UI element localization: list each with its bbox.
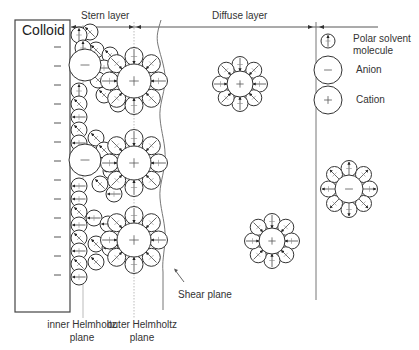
- diffuse-anion: [335, 175, 363, 203]
- polar-solvent-molecule: [88, 254, 104, 270]
- diffuse-layer-label: Diffuse layer: [212, 10, 267, 21]
- outer-helmholtz-plane-label: outer Helmholtz plane: [107, 318, 177, 344]
- hydration-solvent-molecule: [101, 231, 119, 249]
- stern-layer-label: Stern layer: [81, 10, 129, 21]
- hydration-solvent-molecule: [341, 161, 357, 177]
- stern-cation: [117, 223, 151, 257]
- hydration-solvent-molecule: [125, 48, 143, 66]
- anion-icon: [314, 56, 342, 84]
- legend-cation-label: Cation: [356, 94, 385, 105]
- stern-cation: [117, 146, 151, 180]
- shear-plane-pointer: [175, 270, 184, 282]
- diffuse-cation: [259, 228, 285, 254]
- hydration-solvent-molecule: [150, 154, 168, 172]
- colloid-label: Colloid: [22, 22, 65, 38]
- outer-helmholtz-label-line1: outer Helmholtz: [107, 318, 177, 331]
- hydration-solvent-molecule: [150, 72, 168, 90]
- adsorbed-anion: [69, 144, 101, 176]
- hydration-solvent-molecule: [125, 179, 143, 197]
- polar-solvent-molecule-icon: [321, 34, 335, 48]
- stern-cation: [117, 64, 151, 98]
- legend-polar-solvent-label: Polar solvent molecule: [353, 33, 411, 57]
- hydration-solvent-molecule: [362, 181, 378, 197]
- hydration-solvent-molecule: [101, 72, 119, 90]
- colloid-box: [15, 20, 70, 312]
- legend-anion-label: Anion: [356, 64, 382, 75]
- legend-polar-solvent-line1: Polar solvent: [353, 33, 411, 45]
- shear-plane-label: Shear plane: [178, 289, 232, 300]
- hydration-solvent-molecule: [125, 207, 143, 225]
- legend-polar-solvent-line2: molecule: [353, 45, 411, 57]
- adsorbed-anion: [69, 49, 101, 81]
- diffuse-cation: [227, 71, 253, 97]
- hydration-solvent-molecule: [321, 181, 337, 197]
- hydration-solvent-molecule: [125, 130, 143, 148]
- outer-helmholtz-label-line2: plane: [107, 331, 177, 344]
- hydration-solvent-molecule: [125, 256, 143, 274]
- polar-solvent-molecule: [92, 176, 108, 192]
- hydration-solvent-molecule: [101, 154, 119, 172]
- cation-icon: [314, 86, 342, 114]
- hydration-solvent-molecule: [125, 97, 143, 115]
- polar-solvent-molecule: [71, 269, 87, 285]
- hydration-solvent-molecule: [150, 231, 168, 249]
- hydration-solvent-molecule: [341, 202, 357, 218]
